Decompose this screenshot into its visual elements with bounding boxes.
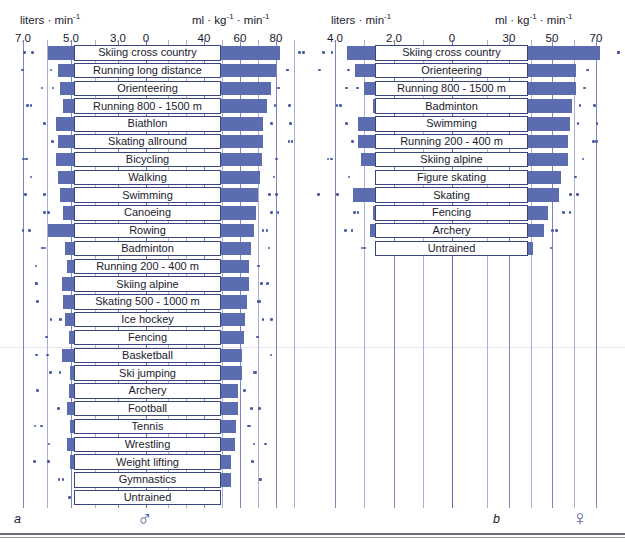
male-symbol-icon: ♂ <box>137 508 153 529</box>
chart-row: Tennis <box>0 418 313 436</box>
chart-row: Badminton <box>0 240 313 258</box>
chart-row: Canoeing <box>0 204 313 222</box>
chart-row: Football <box>0 400 313 418</box>
data-point-dot <box>25 158 28 161</box>
sport-label-ski-jumping: Ski jumping <box>74 365 221 381</box>
sport-label-archery: Archery <box>375 223 528 239</box>
data-point-dot <box>40 425 43 428</box>
data-point-dot <box>41 87 44 90</box>
sport-label-fencing: Fencing <box>74 330 221 346</box>
sport-label-running-200-400-m: Running 200 - 400 m <box>375 134 528 150</box>
sport-label-biathlon: Biathlon <box>74 116 221 132</box>
data-point-dot <box>257 300 260 303</box>
sport-label-bicycling: Bicycling <box>74 152 221 168</box>
chart-row: Skating <box>313 186 625 204</box>
data-point-dot <box>43 211 46 214</box>
chart-row: Fencing <box>313 204 625 222</box>
data-point-dot <box>347 69 350 72</box>
data-point-dot <box>22 229 25 232</box>
data-point-dot <box>243 389 246 392</box>
panel-b-left-unit: liters · min-1 <box>331 14 391 26</box>
sport-label-basketball: Basketball <box>74 348 221 364</box>
chart-row: Biathlon <box>0 115 313 133</box>
data-point-dot <box>256 336 259 339</box>
panel-a-letter: a <box>14 512 21 526</box>
data-point-dot <box>583 87 586 90</box>
data-point-dot <box>59 371 62 374</box>
panel-b-plot-area: Skiing cross countryOrienteeringRunning … <box>313 40 625 508</box>
chart-row: Running 800 - 1500 m <box>313 80 625 98</box>
data-point-dot <box>51 140 54 143</box>
chart-row: Archery <box>313 222 625 240</box>
sport-label-skiing-alpine: Skiing alpine <box>375 152 528 168</box>
chart-row: Wrestling <box>0 436 313 454</box>
panel-a-plot-area: Skiing cross countryRunning long distanc… <box>0 40 313 508</box>
data-point-dot <box>59 318 62 321</box>
chart-row: Ski jumping <box>0 364 313 382</box>
data-point-dot <box>579 104 582 107</box>
sport-label-fencing: Fencing <box>375 205 528 221</box>
data-point-dot <box>250 407 253 410</box>
chart-row: Untrained <box>0 489 313 507</box>
chart-row: Walking <box>0 169 313 187</box>
data-point-dot <box>569 211 572 214</box>
sport-label-running-200-400-m: Running 200 - 400 m <box>74 259 221 275</box>
data-point-dot <box>336 104 339 107</box>
data-point-dot <box>357 211 360 214</box>
chart-row: Skiing cross country <box>313 44 625 62</box>
chart-row: Skiing cross country <box>0 44 313 62</box>
sport-label-badminton: Badminton <box>74 241 221 257</box>
data-point-dot <box>356 87 359 90</box>
sport-label-archery: Archery <box>74 383 221 399</box>
chart-row: Orienteering <box>0 80 313 98</box>
panel-b-letter: b <box>493 512 500 526</box>
sport-label-skiing-alpine: Skiing alpine <box>74 276 221 292</box>
data-point-dot <box>258 407 261 410</box>
chart-row: Swimming <box>313 115 625 133</box>
data-point-dot <box>270 318 273 321</box>
data-point-dot <box>270 354 273 357</box>
sport-label-gymnastics: Gymnastics <box>74 472 221 488</box>
data-point-dot <box>317 193 320 196</box>
sport-label-skiing-cross-country: Skiing cross country <box>375 45 528 61</box>
chart-row: Badminton <box>313 97 625 115</box>
data-point-dot <box>286 69 289 72</box>
data-point-dot <box>43 122 46 125</box>
data-point-dot <box>275 193 278 196</box>
data-point-dot <box>353 211 356 214</box>
data-point-dot <box>52 87 55 90</box>
data-point-dot <box>336 193 339 196</box>
data-point-dot <box>550 247 553 250</box>
panel-b-right-unit: ml · kg-1 · min-1 <box>495 14 573 26</box>
data-point-dot <box>58 478 61 481</box>
data-point-dot <box>322 51 325 54</box>
chart-row: Figure skating <box>313 169 625 187</box>
sport-label-skating-500-1000-m: Skating 500 - 1000 m <box>74 294 221 310</box>
sport-label-skiing-cross-country: Skiing cross country <box>74 45 221 61</box>
data-point-dot <box>257 265 260 268</box>
data-point-dot <box>562 211 565 214</box>
sport-label-swimming: Swimming <box>74 187 221 203</box>
data-point-dot <box>21 69 24 72</box>
panel-b-rows: Skiing cross countryOrienteeringRunning … <box>313 44 625 258</box>
sport-label-untrained: Untrained <box>375 241 528 257</box>
data-point-dot <box>582 158 585 161</box>
data-point-dot <box>330 158 333 161</box>
data-point-dot <box>569 193 572 196</box>
figure-vo2max: liters · min-1 ml · kg-1 · min-1 7.05.03… <box>0 0 625 543</box>
data-point-dot <box>345 87 348 90</box>
data-point-dot <box>592 140 595 143</box>
chart-row: Skating 500 - 1000 m <box>0 293 313 311</box>
chart-row: Running 200 - 400 m <box>0 258 313 276</box>
sport-label-figure-skating: Figure skating <box>375 170 528 186</box>
data-point-dot <box>44 247 47 250</box>
data-point-dot <box>264 443 267 446</box>
chart-row: Orienteering <box>313 62 625 80</box>
data-point-dot <box>586 69 589 72</box>
chart-row: Fencing <box>0 329 313 347</box>
data-point-dot <box>318 69 321 72</box>
data-point-dot <box>348 176 351 179</box>
data-point-dot <box>596 122 599 125</box>
data-point-dot <box>274 104 277 107</box>
data-point-dot <box>260 282 263 285</box>
